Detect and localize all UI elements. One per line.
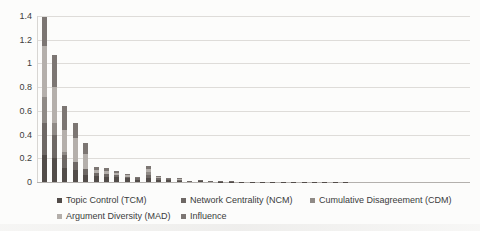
y-axis-line <box>37 16 38 182</box>
gridline <box>37 40 470 41</box>
bar-segment <box>62 168 67 182</box>
bar-segment <box>52 158 57 182</box>
bar-segment <box>83 143 88 154</box>
legend-swatch-icon <box>57 214 62 219</box>
bar-segment <box>146 169 151 172</box>
bar-segment <box>187 181 192 182</box>
bar-segment <box>146 166 151 169</box>
y-tick-label: 0.8 <box>6 83 32 92</box>
bar-segment <box>198 180 203 181</box>
bar-segment <box>94 167 99 170</box>
legend-label: Cumulative Disagreement (CDM) <box>319 195 452 206</box>
bar-segment <box>166 180 171 182</box>
y-tick-label: 0.2 <box>6 154 32 163</box>
stacked-bar-chart-figure: 00.20.40.60.811.21.4 Topic Control (TCM)… <box>0 0 480 231</box>
y-tick-label: 0.6 <box>6 107 32 116</box>
legend-swatch-icon <box>310 198 315 203</box>
bar-segment <box>156 176 161 177</box>
bar-segment <box>52 55 57 87</box>
y-tick-label: 1.4 <box>6 12 32 21</box>
bar-segment <box>104 171 109 174</box>
y-tick-label: 0.4 <box>6 131 32 140</box>
bar-segment <box>83 154 88 169</box>
bar-segment <box>42 155 47 182</box>
legend-swatch-icon <box>181 198 186 203</box>
bar-segment <box>166 178 171 179</box>
bar-segment <box>83 175 88 182</box>
gridline <box>37 111 470 112</box>
bar-segment <box>135 177 140 178</box>
bar-segment <box>73 170 78 182</box>
bar-segment <box>177 180 182 181</box>
x-axis-line <box>37 182 470 183</box>
legend-swatch-icon <box>181 214 186 219</box>
legend-label: Network Centrality (NCM) <box>190 195 293 206</box>
gridline <box>37 63 470 64</box>
gridline <box>37 87 470 88</box>
bar-segment <box>208 181 213 182</box>
gridline <box>37 158 470 159</box>
bar-segment <box>52 123 57 135</box>
legend-item: Argument Diversity (MAD) <box>57 211 171 222</box>
plot-area: 00.20.40.60.811.21.4 <box>0 0 480 190</box>
bar-segment <box>62 106 67 130</box>
bar-segment <box>198 181 203 182</box>
bar-segment <box>42 17 47 45</box>
bar-segment <box>146 175 151 178</box>
bar-segment <box>62 130 67 153</box>
bar-segment <box>156 178 161 179</box>
legend-item: Topic Control (TCM) <box>57 195 147 206</box>
bar-segment <box>146 172 151 176</box>
legend-item: Network Centrality (NCM) <box>181 195 293 206</box>
bar-segment <box>42 97 47 123</box>
bar-segment <box>52 135 57 159</box>
bar-segment <box>114 173 119 175</box>
gridline <box>37 135 470 136</box>
bar-segment <box>94 176 99 182</box>
y-tick-label: 0 <box>6 178 32 187</box>
legend-item: Cumulative Disagreement (CDM) <box>310 195 452 206</box>
bar-segment <box>156 177 161 178</box>
bar-segment <box>177 181 182 182</box>
bar-segment <box>52 87 57 123</box>
bar-segment <box>208 181 213 182</box>
bar-segment <box>166 178 171 179</box>
bar-segment <box>125 175 130 176</box>
scan-artifact-band <box>0 224 480 231</box>
bar-segment <box>135 178 140 179</box>
bar-segment <box>104 177 109 182</box>
legend-swatch-icon <box>57 198 62 203</box>
bar-segment <box>146 178 151 182</box>
bar-segment <box>135 177 140 178</box>
bar-segment <box>114 177 119 182</box>
legend-item: Influence <box>181 211 227 222</box>
bar-segment <box>166 179 171 180</box>
bar-segment <box>42 46 47 97</box>
bar-segment <box>73 123 78 138</box>
bar-segment <box>177 179 182 180</box>
bar-segment <box>177 178 182 179</box>
gridline <box>37 16 470 17</box>
y-tick-label: 1 <box>6 59 32 68</box>
bar-segment <box>187 181 192 182</box>
bar-segment <box>94 170 99 172</box>
bar-segment <box>114 175 119 177</box>
legend-label: Topic Control (TCM) <box>66 195 147 206</box>
bar-segment <box>62 152 67 154</box>
bar-segment <box>73 162 78 170</box>
bar-segment <box>83 169 88 175</box>
legend-label: Influence <box>190 211 227 222</box>
bar-segment <box>125 178 130 182</box>
bar-segment <box>62 155 67 168</box>
bar-segment <box>104 168 109 170</box>
bar-segment <box>135 180 140 182</box>
bar-segment <box>73 138 78 162</box>
bar-segment <box>125 174 130 175</box>
bar-segment <box>42 123 47 155</box>
legend-label: Argument Diversity (MAD) <box>66 211 171 222</box>
y-tick-label: 1.2 <box>6 36 32 45</box>
bar-segment <box>104 174 109 178</box>
bar-segment <box>94 173 99 177</box>
bar-segment <box>114 171 119 173</box>
bar-segment <box>125 177 130 179</box>
